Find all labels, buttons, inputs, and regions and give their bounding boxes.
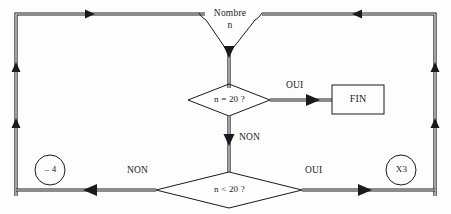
arrowhead-less-yes-right [358,184,372,196]
edge-label-equal-yes: OUI [286,81,304,91]
arrowhead-merge-down [224,46,235,58]
arrowhead-less-no-left [83,184,97,196]
node-decision-less-label: n < 20 ? [208,185,251,194]
node-operation-times-three-label: X3 [387,165,416,174]
flowchart-canvas: .dbl { fill: none; stroke: #1a1a1a; stro… [0,0,451,214]
node-terminal-end-label: FIN [332,94,384,105]
arrowhead-right-up-2 [431,118,440,128]
edge-label-equal-no: NON [239,133,260,143]
arrowhead-left-up-1 [12,62,21,72]
edge-label-less-yes: OUI [305,166,323,176]
node-operation-minus-four-label: – 4 [36,165,65,174]
flowchart-svg: .dbl { fill: none; stroke: #1a1a1a; stro… [0,0,451,214]
arrowhead-top-left-right [85,10,95,19]
node-input-merge-label-line2: n [206,21,254,31]
arrowhead-equal-no-down [224,134,235,146]
edge-label-less-no: NON [127,166,148,176]
arrowhead-left-up-2 [12,118,21,128]
arrowhead-to-fin [306,94,320,106]
arrowhead-right-up-1 [431,62,440,72]
arrowhead-top-right-left [352,10,362,19]
node-input-merge-label-line1: Nombre [206,9,254,19]
node-decision-equal-label: n = 20 ? [209,95,250,104]
